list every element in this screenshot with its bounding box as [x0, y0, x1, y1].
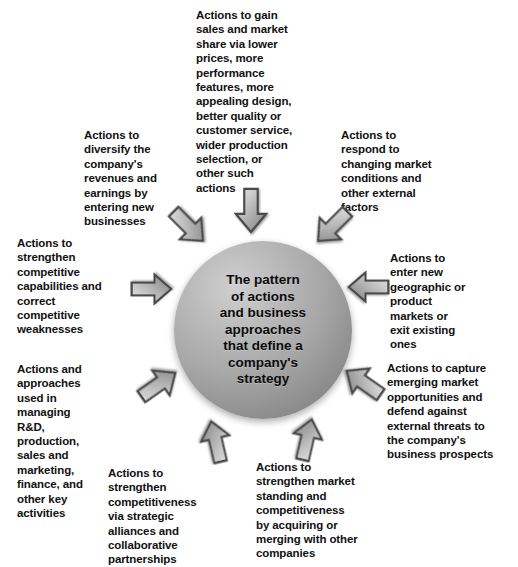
- arrow-bottom-right: [282, 413, 331, 467]
- central-circle-text: The pattern of actions and business appr…: [208, 272, 318, 388]
- arrow-right: [347, 267, 391, 307]
- label-bottom-left: Actions to strengthen competitiveness vi…: [108, 466, 230, 567]
- label-lower-right: Actions to capture emerging market oppor…: [387, 361, 511, 462]
- label-right: Actions to enter new geographic or produ…: [390, 251, 508, 352]
- label-left: Actions to strengthen competitive capabi…: [17, 236, 135, 337]
- label-top-right: Actions to respond to changing market co…: [341, 128, 469, 214]
- arrow-top: [230, 186, 272, 234]
- label-top: Actions to gain sales and market share v…: [196, 8, 324, 195]
- label-bottom-right: Actions to strengthen market standing an…: [256, 460, 392, 561]
- central-circle: The pattern of actions and business appr…: [174, 241, 352, 419]
- arrow-lower-left: [127, 355, 189, 416]
- arrow-bottom-left: [191, 415, 240, 469]
- arrow-left: [129, 269, 173, 309]
